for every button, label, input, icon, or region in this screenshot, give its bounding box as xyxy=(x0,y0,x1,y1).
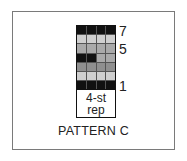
repeat-label-rep: rep xyxy=(77,104,115,116)
chart-cell-row5-col4 xyxy=(106,44,115,52)
chart-cell-row2-col2 xyxy=(87,72,96,80)
knitting-chart-grid xyxy=(76,25,116,90)
chart-cell-row6-col4 xyxy=(106,35,115,43)
row-label-1: 1 xyxy=(119,79,127,93)
chart-cell-row6-col3 xyxy=(97,35,106,43)
chart-cell-row6-col2 xyxy=(87,35,96,43)
chart-cell-row2-col4 xyxy=(106,72,115,80)
chart-cell-row7-col4 xyxy=(106,26,115,34)
row-label-7: 7 xyxy=(119,24,127,38)
chart-cell-row6-col1 xyxy=(77,35,86,43)
chart-cell-row7-col3 xyxy=(97,26,106,34)
chart-cell-row4-col3 xyxy=(97,54,106,62)
chart-cell-row2-col3 xyxy=(97,72,106,80)
chart-cell-row5-col1 xyxy=(77,44,86,52)
chart-cell-row3-col3 xyxy=(97,63,106,71)
chart-cell-row7-col2 xyxy=(87,26,96,34)
row-label-5: 5 xyxy=(119,42,127,56)
chart-cell-row5-col2 xyxy=(87,44,96,52)
chart-cell-row3-col4 xyxy=(106,63,115,71)
chart-cell-row4-col4 xyxy=(106,54,115,62)
chart-cell-row4-col1 xyxy=(77,54,86,62)
chart-cell-row2-col1 xyxy=(77,72,86,80)
chart-cell-row3-col1 xyxy=(77,63,86,71)
chart-cell-row5-col3 xyxy=(97,44,106,52)
chart-cell-row4-col2 xyxy=(87,54,96,62)
chart-cell-row7-col1 xyxy=(77,26,86,34)
stitch-repeat-box: 4-st rep xyxy=(76,89,116,118)
pattern-title: PATTERN C xyxy=(12,124,175,138)
chart-cell-row3-col2 xyxy=(87,63,96,71)
